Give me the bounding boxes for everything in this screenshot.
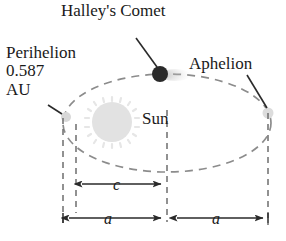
comet-leader-line xyxy=(136,38,157,67)
comet-icon xyxy=(152,66,168,82)
aphelion-leader-line xyxy=(247,75,267,108)
semi-major-axis-left-label: a xyxy=(104,210,112,228)
focal-distance-label: c xyxy=(113,176,120,194)
diagram-title: Halley's Comet xyxy=(61,2,166,20)
sun-icon xyxy=(92,102,132,142)
perihelion-leader-line xyxy=(48,105,62,114)
semi-major-axis-right-label: a xyxy=(212,210,220,228)
sun-label: Sun xyxy=(142,110,168,128)
aphelion-label: Aphelion xyxy=(189,55,252,73)
halleys-comet-orbit-diagram: Halley's Comet Perihelion 0.587 AU Aphel… xyxy=(0,0,286,241)
perihelion-label: Perihelion 0.587 AU xyxy=(6,44,76,99)
